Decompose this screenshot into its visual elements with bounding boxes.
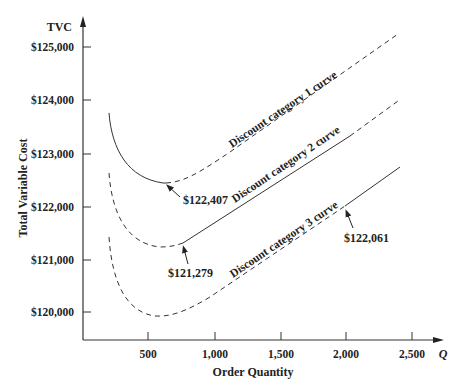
x-axis-title: Order Quantity (213, 365, 294, 379)
x-tick-labels: 500 1,000 1,500 2,000 2,500 (139, 348, 425, 360)
curve-category-1 (109, 34, 398, 183)
y-tick-label: $121,000 (31, 254, 74, 266)
arrow-icon (169, 187, 180, 197)
x-tick-label: 1,500 (268, 348, 294, 360)
x-axis-symbol: Q (439, 347, 448, 361)
y-tick-label: $122,000 (31, 201, 74, 213)
y-ticks (83, 47, 91, 312)
curve-3-solid (345, 167, 400, 206)
annotation-122407: $122,407 (169, 187, 228, 207)
tvc-chart: $125,000 $124,000 $123,000 $122,000 $121… (0, 0, 465, 390)
curve-2-solid (183, 136, 350, 243)
annotation-label: $122,061 (344, 231, 389, 245)
y-tick-label: $123,000 (31, 148, 74, 160)
annotation-122061: $122,061 (344, 213, 389, 245)
curve-3-label: Discount category 3 curve (227, 198, 340, 280)
x-tick-label: 2,500 (399, 348, 425, 360)
curve-1-solid (109, 113, 166, 183)
x-axis-arrow-icon (433, 337, 444, 343)
x-tick-label: 2,000 (333, 348, 359, 360)
x-tick-label: 1,000 (202, 348, 228, 360)
y-axis-arrow-icon (80, 16, 86, 27)
arrow-icon (184, 249, 188, 264)
y-tick-labels: $125,000 $124,000 $123,000 $122,000 $121… (31, 41, 74, 318)
arrow-icon (347, 213, 353, 228)
y-axis-title: Total Variable Cost (16, 139, 30, 238)
x-ticks (148, 332, 412, 340)
y-tick-label: $124,000 (31, 94, 74, 106)
annotation-label: $122,407 (183, 193, 228, 207)
curve-2-dashed-right (350, 101, 398, 136)
annotation-121279: $121,279 (168, 249, 213, 280)
y-axis-symbol: TVC (47, 20, 72, 34)
y-tick-label: $125,000 (31, 41, 74, 53)
curve-2-dashed-left (109, 173, 183, 247)
x-tick-label: 500 (139, 348, 157, 360)
y-tick-label: $120,000 (31, 306, 74, 318)
annotation-label: $121,279 (168, 266, 213, 280)
